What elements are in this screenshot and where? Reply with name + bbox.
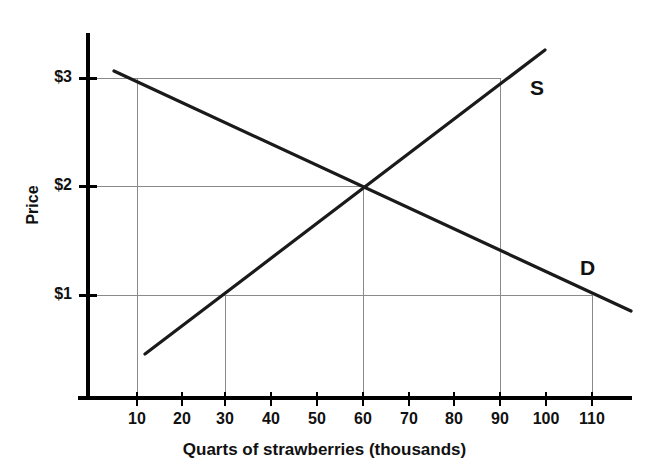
supply-demand-chart: $3 $2 $1 10 20 30 40 50 60 70 80 90 100 …: [0, 0, 649, 474]
demand-curve: [114, 71, 631, 311]
x-tick-label-30: 30: [205, 410, 245, 428]
supply-curve: [145, 50, 545, 354]
x-axis-title: Quarts of strawberries (thousands): [0, 440, 649, 460]
x-tick-label-100: 100: [523, 410, 569, 428]
supply-curve-label: S: [530, 76, 544, 100]
x-tick-label-10: 10: [117, 410, 157, 428]
x-tick-label-110: 110: [569, 410, 615, 428]
x-tick-label-20: 20: [162, 410, 202, 428]
reference-lines: [88, 78, 592, 398]
y-tick-label-3: $3: [24, 68, 72, 86]
y-axis-title: Price: [24, 165, 42, 245]
x-tick-label-70: 70: [389, 410, 429, 428]
x-tick-label-90: 90: [480, 410, 520, 428]
x-tick-label-50: 50: [297, 410, 337, 428]
demand-curve-label: D: [580, 256, 595, 280]
x-tick-label-40: 40: [251, 410, 291, 428]
chart-plot-area: [0, 0, 649, 474]
y-tick-label-1: $1: [24, 285, 72, 303]
x-tick-label-80: 80: [434, 410, 474, 428]
x-tick-label-60: 60: [343, 410, 383, 428]
